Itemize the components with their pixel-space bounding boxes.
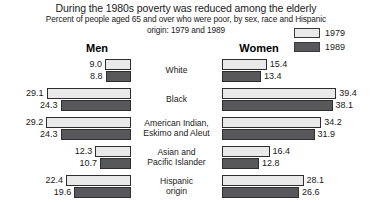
legend-label-1989: 1989: [325, 42, 345, 52]
men-bar-1989: 10.7: [79, 158, 131, 169]
men-bar-rect-1989: [106, 71, 132, 82]
men-value-label-1989: 8.8: [90, 72, 103, 81]
women-bar-rect-1989: [222, 71, 261, 82]
men-bar-rect-1989: [74, 187, 131, 198]
women-value-label-1989: 31.9: [318, 130, 336, 139]
women-bar-rect-1979: [222, 175, 304, 186]
women-bar-1989: 31.9: [222, 129, 335, 140]
women-bar-rect-1979: [222, 59, 267, 70]
women-bars-group: 28.126.6: [222, 172, 372, 201]
men-bars-group: 12.310.7: [0, 143, 131, 172]
men-value-label-1979: 29.1: [26, 89, 44, 98]
women-value-label-1989: 13.4: [264, 72, 282, 81]
women-bar-1979: 28.1: [222, 175, 324, 186]
men-value-label-1979: 29.2: [26, 118, 44, 127]
men-bars-group: 29.224.3: [0, 114, 131, 143]
women-bar-1979: 39.4: [222, 88, 357, 99]
category-label-text: Hispanicorigin: [160, 177, 193, 196]
women-bars-group: 15.413.4: [222, 56, 372, 85]
men-bars-group: 29.124.3: [0, 85, 131, 114]
women-bar-rect-1989: [222, 100, 333, 111]
chart-row: 29.224.3American Indian,Eskimo and Aleut…: [0, 114, 372, 143]
men-bar-rect-1979: [66, 175, 131, 186]
women-bar-rect-1979: [222, 88, 336, 99]
women-value-label-1979: 16.4: [273, 147, 291, 156]
men-value-label-1989: 24.3: [40, 101, 58, 110]
men-value-label-1989: 10.7: [79, 159, 97, 168]
category-label: Asian andPacific Islander: [131, 143, 222, 172]
women-bar-1989: 38.1: [222, 100, 353, 111]
category-label-text: White: [166, 66, 188, 76]
women-bars-group: 16.412.8: [222, 143, 372, 172]
men-bar-1989: 24.3: [40, 129, 131, 140]
category-label: White: [131, 56, 222, 85]
men-bar-1979: 29.1: [26, 88, 131, 99]
legend: 1979 1989: [294, 27, 368, 55]
men-value-label-1989: 19.6: [54, 188, 72, 197]
women-value-label-1979: 15.4: [270, 60, 288, 69]
men-bar-rect-1979: [47, 88, 131, 99]
category-label-text: Asian andPacific Islander: [147, 148, 205, 167]
men-bar-rect-1979: [95, 146, 131, 157]
men-bar-1989: 8.8: [90, 71, 131, 82]
chart-row: 29.124.3Black39.438.1: [0, 85, 372, 114]
women-bar-1979: 34.2: [222, 117, 342, 128]
women-value-label-1979: 39.4: [339, 89, 357, 98]
men-bar-1989: 19.6: [54, 187, 131, 198]
category-label: Black: [131, 85, 222, 114]
women-bar-rect-1989: [222, 129, 315, 140]
legend-item-1989: 1989: [294, 41, 368, 52]
men-bar-rect-1989: [61, 100, 132, 111]
legend-swatch-1989-icon: [294, 42, 320, 52]
women-value-label-1989: 38.1: [336, 101, 354, 110]
women-value-label-1979: 28.1: [307, 176, 325, 185]
men-bar-rect-1989: [100, 158, 131, 169]
women-value-label-1989: 26.6: [302, 188, 320, 197]
legend-swatch-1979-icon: [294, 28, 320, 38]
category-label: American Indian,Eskimo and Aleut: [131, 114, 222, 143]
men-bar-1979: 29.2: [26, 117, 131, 128]
women-bars-group: 39.438.1: [222, 85, 372, 114]
chart-row: 9.08.8White15.413.4: [0, 56, 372, 85]
column-header-men: Men: [62, 42, 132, 54]
category-label-text: American Indian,Eskimo and Aleut: [143, 119, 209, 138]
men-bar-rect-1989: [61, 129, 132, 140]
women-bar-rect-1989: [222, 158, 259, 169]
women-bars-group: 34.231.9: [222, 114, 372, 143]
men-bar-1979: 9.0: [89, 59, 131, 70]
men-bar-1989: 24.3: [40, 100, 131, 111]
men-bar-1979: 22.4: [45, 175, 131, 186]
men-bars-group: 22.419.6: [0, 172, 131, 201]
men-value-label-1979: 9.0: [89, 60, 102, 69]
women-bar-1989: 12.8: [222, 158, 280, 169]
legend-label-1979: 1979: [325, 28, 345, 38]
women-bar-1989: 13.4: [222, 71, 281, 82]
women-bar-rect-1989: [222, 187, 299, 198]
chart-row: 12.310.7Asian andPacific Islander16.412.…: [0, 143, 372, 172]
category-label-text: Black: [166, 95, 187, 105]
legend-item-1979: 1979: [294, 27, 368, 38]
column-headers: Men Women: [0, 42, 294, 56]
men-bars-group: 9.08.8: [0, 56, 131, 85]
women-bar-rect-1979: [222, 146, 270, 157]
women-bar-1979: 16.4: [222, 146, 290, 157]
column-header-women: Women: [222, 42, 296, 54]
men-value-label-1979: 12.3: [75, 147, 93, 156]
women-value-label-1979: 34.2: [324, 118, 342, 127]
women-bar-1989: 26.6: [222, 187, 320, 198]
women-bar-1979: 15.4: [222, 59, 287, 70]
women-value-label-1989: 12.8: [262, 159, 280, 168]
chart-plot-area: 9.08.8White15.413.429.124.3Black39.438.1…: [0, 56, 372, 202]
page-title: During the 1980s poverty was reduced amo…: [0, 2, 372, 14]
women-bar-rect-1979: [222, 117, 321, 128]
men-value-label-1989: 24.3: [40, 130, 58, 139]
men-bar-1979: 12.3: [75, 146, 131, 157]
men-bar-rect-1979: [46, 117, 131, 128]
category-label: Hispanicorigin: [131, 172, 222, 201]
men-value-label-1979: 22.4: [45, 176, 63, 185]
chart-row: 22.419.6Hispanicorigin28.126.6: [0, 172, 372, 201]
men-bar-rect-1979: [105, 59, 131, 70]
